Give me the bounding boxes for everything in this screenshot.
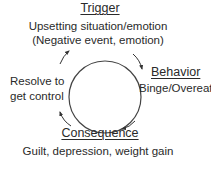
trigger-line-1: Upsetting situation/emotion xyxy=(29,20,168,33)
arrow-consequence-to-resolve-icon xyxy=(60,112,71,126)
behavior-title: Behavior xyxy=(151,66,200,79)
consequence-line-1: Guilt, depression, weight gain xyxy=(23,145,174,158)
arrow-trigger-to-behavior-icon xyxy=(133,54,142,69)
cycle-circle xyxy=(69,61,141,133)
resolve-line-2: get control xyxy=(10,90,64,103)
trigger-line-2: (Negative event, emotion) xyxy=(32,34,164,47)
trigger-title: Trigger xyxy=(80,2,119,15)
arrow-resolve-to-trigger-icon xyxy=(60,51,69,64)
consequence-title: Consequence xyxy=(61,127,138,140)
behavior-line-1: Binge/Overeat xyxy=(139,82,211,95)
resolve-line-1: Resolve to xyxy=(10,75,64,88)
